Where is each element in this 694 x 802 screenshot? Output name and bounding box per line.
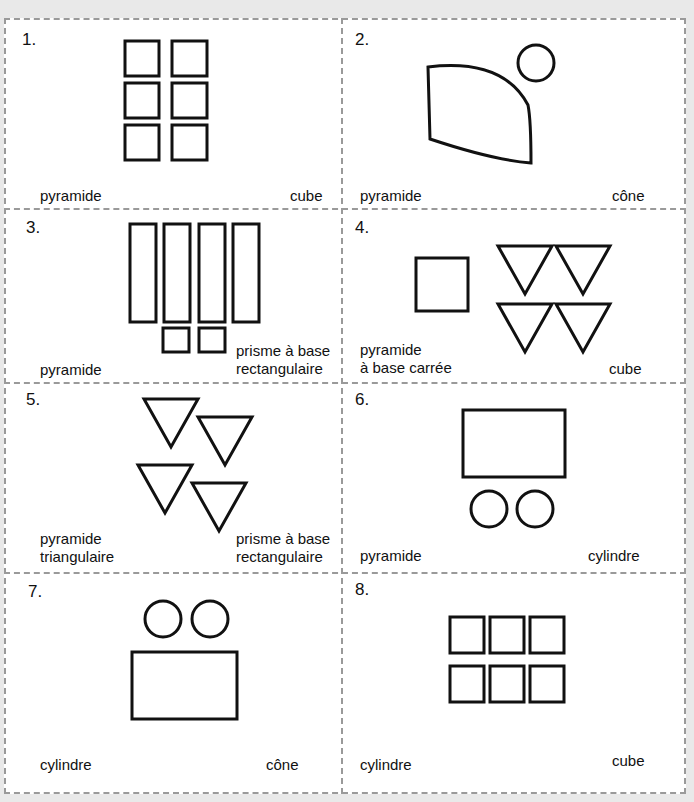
answer-option-left[interactable]: pyramide [40, 361, 102, 379]
answer-option-left[interactable]: cylindre [360, 756, 412, 774]
card-3: 3. pyramide prisme à base rectangulaire [0, 210, 343, 382]
answer-option-left[interactable]: pyramide [360, 187, 422, 205]
answer-option-left[interactable]: pyramide triangulaire [40, 530, 114, 566]
card-7: 7. cylindre cône [0, 572, 343, 802]
net-2x3-squares-icon [0, 0, 343, 210]
answer-option-right[interactable]: cône [266, 756, 299, 774]
card-2: 2. pyramide cône [343, 0, 694, 210]
label-line: pyramide [360, 341, 452, 359]
label-line: prisme à base [236, 342, 330, 360]
answer-option-left[interactable]: cylindre [40, 756, 92, 774]
label-line: rectangulaire [236, 360, 330, 378]
label-line: triangulaire [40, 548, 114, 566]
answer-option-right[interactable]: cube [612, 752, 645, 770]
card-6: 6. pyramide cylindre [343, 382, 694, 572]
answer-option-right[interactable]: cube [290, 187, 323, 205]
answer-option-left[interactable]: pyramide [40, 187, 102, 205]
label-line: rectangulaire [236, 548, 330, 566]
answer-option-right[interactable]: prisme à base rectangulaire [236, 530, 330, 566]
net-sector-circle-icon [343, 0, 694, 210]
answer-option-left[interactable]: pyramide à base carrée [360, 341, 452, 377]
answer-option-right[interactable]: cylindre [588, 547, 640, 565]
answer-option-right[interactable]: cube [609, 360, 642, 378]
card-1: 1. pyramide cube [0, 0, 343, 210]
label-line: prisme à base [236, 530, 330, 548]
label-line: pyramide [40, 530, 114, 548]
card-4: 4. pyramide à base carrée cube [343, 210, 694, 382]
card-8: 8. cylindre cube [343, 572, 694, 802]
answer-option-right[interactable]: cône [612, 187, 645, 205]
net-rectangle-2-circles-icon [343, 382, 694, 572]
answer-option-right[interactable]: prisme à base rectangulaire [236, 342, 330, 378]
answer-option-left[interactable]: pyramide [360, 547, 422, 565]
label-line: à base carrée [360, 359, 452, 377]
card-5: 5. pyramide triangulaire prisme à base r… [0, 382, 343, 572]
